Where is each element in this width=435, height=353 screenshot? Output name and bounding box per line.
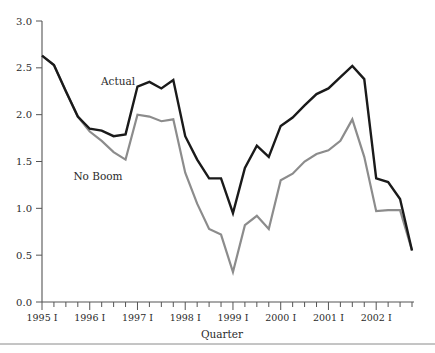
- x-tick-label: 1996 I: [74, 312, 105, 323]
- x-tick-label: 1995 I: [27, 312, 58, 323]
- y-tick-label: 1.0: [16, 203, 32, 214]
- y-tick-label: 3.0: [16, 16, 32, 27]
- x-tick-label: 1997 I: [122, 312, 153, 323]
- chart-container: 0.00.51.01.52.02.53.0 1995 I1996 I1997 I…: [0, 0, 435, 353]
- x-tick-label: 1999 I: [217, 312, 248, 323]
- x-axis-title: Quarter: [201, 328, 244, 340]
- y-tick-label: 2.5: [16, 62, 32, 73]
- y-tick-label: 0.0: [16, 297, 32, 308]
- series-label-no-boom: No Boom: [73, 170, 122, 182]
- x-tick-label: 1998 I: [170, 312, 201, 323]
- x-tick-label: 2000 I: [265, 312, 296, 323]
- y-tick-label: 2.0: [16, 109, 32, 120]
- x-tick-label: 2002 I: [361, 312, 392, 323]
- y-tick-label: 1.5: [16, 156, 32, 167]
- line-chart: 0.00.51.01.52.02.53.0 1995 I1996 I1997 I…: [0, 0, 435, 353]
- chart-background: [0, 0, 435, 353]
- y-tick-label: 0.5: [16, 250, 32, 261]
- x-tick-label: 2001 I: [313, 312, 344, 323]
- series-label-actual: Actual: [100, 75, 136, 87]
